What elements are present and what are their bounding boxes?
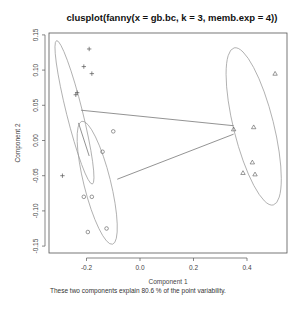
circle-marker (105, 227, 109, 231)
triangle-marker (253, 172, 257, 176)
y-tick-label: 0.05 (32, 99, 39, 112)
plus-marker (60, 174, 64, 178)
circle-marker (82, 195, 86, 199)
connecting-line (117, 134, 233, 179)
y-tick-label: 0.10 (32, 63, 39, 76)
y-tick-label: -0.05 (32, 168, 39, 183)
cluster-ellipse (215, 43, 293, 210)
variability-footnote: These two components explain 80.6 % of t… (50, 287, 226, 295)
triangle-marker (273, 71, 277, 75)
connecting-line (81, 110, 233, 125)
y-tick-label: 0.00 (32, 134, 39, 147)
x-tick-label: 0.2 (189, 264, 198, 271)
y-axis-label: Component 2 (14, 123, 22, 162)
plus-marker (90, 71, 94, 75)
circle-marker (90, 195, 94, 199)
x-tick-label: -0.2 (81, 264, 93, 271)
x-tick-label: 0.4 (242, 264, 251, 271)
cluster-plot: clusplot(fanny(x = gb.bc, k = 3, memb.ex… (0, 0, 303, 310)
cluster-ellipse (69, 118, 126, 247)
y-tick-label: -0.15 (32, 238, 39, 253)
y-tick-label: 0.15 (32, 28, 39, 41)
triangle-marker (251, 125, 255, 129)
plus-marker (87, 47, 91, 51)
triangle-marker (241, 171, 245, 175)
y-axis: -0.15-0.10-0.050.000.050.100.15 (32, 28, 45, 253)
data-points (60, 47, 277, 234)
x-tick-label: 0.0 (135, 264, 144, 271)
chart-title: clusplot(fanny(x = gb.bc, k = 3, memb.ex… (67, 12, 278, 23)
plus-marker (82, 64, 86, 68)
circle-marker (86, 230, 90, 234)
y-tick-label: -0.10 (32, 203, 39, 218)
triangle-marker (250, 160, 254, 164)
x-axis: -0.20.00.20.4 (81, 258, 252, 271)
connecting-line (78, 123, 89, 156)
cluster-connecting-lines (78, 110, 233, 179)
circle-marker (111, 130, 115, 134)
cluster-ellipse (49, 39, 100, 186)
x-axis-label: Component 1 (148, 278, 187, 286)
